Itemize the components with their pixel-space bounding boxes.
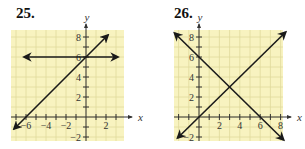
x-tick-label: 2 — [217, 120, 222, 131]
graph-25: −6−4−22−22468xy — [11, 11, 143, 143]
y-tick-label: 4 — [189, 72, 194, 83]
x-tick-label: 8 — [278, 120, 283, 131]
y-axis-label: y — [84, 11, 90, 23]
y-tick-label: 2 — [189, 92, 194, 103]
x-tick-label: 6 — [258, 120, 263, 131]
y-tick-label: −2 — [183, 132, 194, 143]
x-axis-label: x — [137, 111, 143, 123]
y-tick-label: 8 — [189, 32, 194, 43]
y-axis-label: y — [197, 11, 203, 23]
x-tick-label: −4 — [41, 120, 52, 131]
y-tick-label: 8 — [76, 32, 81, 43]
x-tick-label: −2 — [61, 120, 72, 131]
y-tick-label: 6 — [189, 52, 194, 63]
y-tick-label: −2 — [70, 132, 81, 143]
graph-26: 2468−22468xy — [174, 11, 302, 143]
x-tick-label: 4 — [237, 120, 242, 131]
y-tick-label: 2 — [76, 92, 81, 103]
graphs: −6−4−22−22468xy 2468−22468xy — [0, 0, 305, 149]
x-axis-label: x — [296, 111, 302, 123]
y-tick-label: 4 — [76, 72, 81, 83]
x-tick-label: 2 — [104, 120, 109, 131]
